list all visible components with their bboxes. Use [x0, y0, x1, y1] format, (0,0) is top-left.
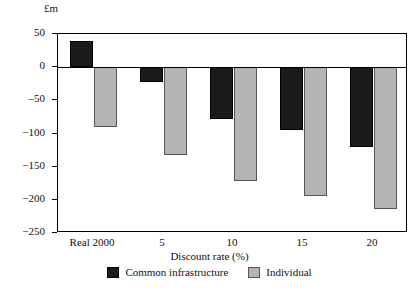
y-axis-tick-label: 50	[5, 27, 45, 38]
x-axis-title: Discount rate (%)	[0, 250, 419, 263]
y-axis-tick-label: −100	[5, 127, 45, 138]
x-axis-tick-label: 10	[227, 236, 238, 248]
y-axis-tick	[52, 199, 57, 200]
y-axis-tick	[52, 33, 57, 34]
y-axis-tick-label: −150	[5, 160, 45, 171]
plot-area	[57, 33, 407, 232]
x-axis-tick-label: 15	[297, 236, 308, 248]
legend-label: Individual	[266, 266, 311, 279]
y-axis-tick-label: ‒50	[5, 93, 45, 104]
bar	[164, 67, 187, 155]
bar	[94, 67, 117, 127]
y-axis-unit-label: £m	[44, 2, 58, 15]
y-axis-tick	[52, 166, 57, 167]
plot-inner	[58, 34, 406, 231]
y-axis-tick	[52, 99, 57, 100]
legend-entry: Individual	[248, 266, 311, 279]
legend: Common infrastructureIndividual	[0, 266, 419, 279]
bar-chart: £m 500‒50−100−150−200−250 Real 200051015…	[0, 0, 419, 293]
bar	[304, 67, 327, 196]
bar	[374, 67, 397, 209]
bar	[234, 67, 257, 181]
legend-swatch-icon	[107, 267, 119, 278]
y-axis-tick-label: 0	[5, 60, 45, 71]
y-axis-tick-label: −250	[5, 226, 45, 237]
bar	[140, 67, 163, 82]
y-axis-tick	[52, 232, 57, 233]
x-axis-tick-label: 5	[159, 236, 165, 248]
legend-label: Common infrastructure	[125, 266, 228, 279]
y-axis-tick-label: −200	[5, 193, 45, 204]
y-axis-tick	[52, 133, 57, 134]
legend-swatch-icon	[248, 267, 260, 278]
zero-baseline	[58, 67, 406, 68]
bar	[210, 67, 233, 119]
x-axis-tick-label: Real 2000	[70, 236, 115, 248]
bar	[70, 41, 93, 68]
bar	[350, 67, 373, 147]
x-axis-tick-label: 20	[367, 236, 378, 248]
bar	[280, 67, 303, 130]
legend-entry: Common infrastructure	[107, 266, 228, 279]
y-axis-tick	[52, 66, 57, 67]
